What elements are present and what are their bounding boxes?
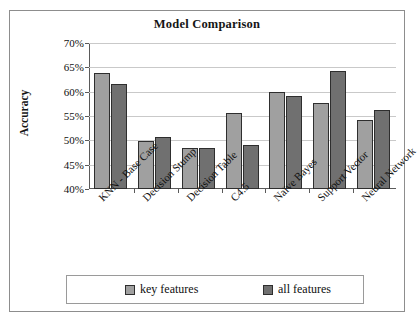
bar	[94, 73, 110, 189]
y-axis-tick-mark	[85, 116, 89, 117]
bar	[269, 92, 285, 189]
y-axis-tick-mark	[85, 140, 89, 141]
y-axis-title: Accuracy	[18, 78, 30, 148]
y-axis-tick-label: 65%	[64, 61, 84, 73]
chart-legend: key features all features	[66, 275, 364, 304]
y-axis-tick-label: 60%	[64, 86, 84, 98]
legend-item-key-features: key features	[125, 282, 198, 297]
legend-label-all-features: all features	[278, 282, 331, 297]
x-axis-category-labels: KNN - Base CaseDecision StumpDecision Ta…	[10, 189, 406, 259]
legend-swatch-all-features	[263, 285, 273, 295]
y-axis-tick-mark	[85, 92, 89, 93]
y-axis-tick-mark	[85, 165, 89, 166]
bar	[313, 103, 329, 189]
chart-title: Model Comparison	[10, 17, 404, 32]
y-axis-tick-label: 50%	[64, 134, 84, 146]
legend-label-key-features: key features	[140, 282, 198, 297]
y-axis-tick-label: 45%	[64, 159, 84, 171]
y-axis-tick-label: 70%	[64, 37, 84, 49]
y-axis-tick-mark	[85, 43, 89, 44]
y-axis-tick-mark	[85, 67, 89, 68]
chart-container: Model Comparison Accuracy 70%65%60%55%50…	[9, 10, 405, 312]
y-axis-tick-label: 55%	[64, 110, 84, 122]
legend-swatch-key-features	[125, 285, 135, 295]
legend-item-all-features: all features	[263, 282, 331, 297]
